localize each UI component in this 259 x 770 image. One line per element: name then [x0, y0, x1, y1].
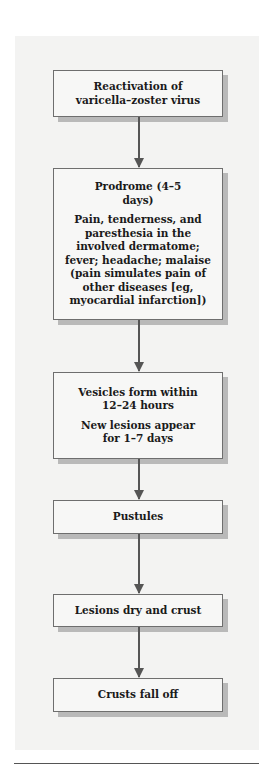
step-dry-crust-text: Lesions dry and crust [75, 604, 202, 618]
step-dry-crust: Lesions dry and crust [53, 594, 223, 627]
step-vesicles-new-lesions: New lesions appear for 1–7 days [60, 419, 216, 446]
step-crusts-fall-text: Crusts fall off [98, 688, 178, 702]
arrow-down-icon [138, 627, 140, 677]
step-prodrome: Prodrome (4–5 days) Pain, tenderness, an… [53, 168, 223, 320]
arrow-down-icon [138, 459, 140, 499]
step-pustules-text: Pustules [113, 510, 164, 524]
arrow-down-icon [138, 117, 140, 167]
step-pustules: Pustules [53, 500, 223, 534]
bottom-divider [14, 763, 259, 764]
arrow-down-icon [138, 320, 140, 371]
step-crusts-fall: Crusts fall off [53, 678, 223, 712]
step-vesicles: Vesicles form within 12–24 hours New les… [53, 372, 223, 459]
step-reactivation: Reactivation of varicella–zoster virus [53, 70, 223, 117]
step-prodrome-title: Prodrome (4–5 days) [60, 180, 216, 207]
step-prodrome-description: Pain, tenderness, and paresthesia in the… [60, 213, 216, 308]
step-vesicles-formation: Vesicles form within 12–24 hours [60, 386, 216, 413]
step-reactivation-text: Reactivation of varicella–zoster virus [60, 80, 216, 107]
arrow-down-icon [138, 534, 140, 593]
